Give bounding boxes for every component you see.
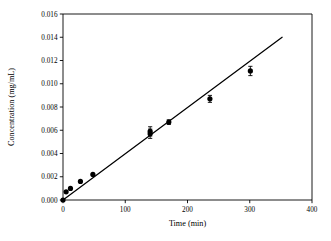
data-point-marker — [78, 179, 83, 184]
y-axis-title: Concentration (mg/mL) — [7, 68, 16, 146]
data-point-marker — [60, 197, 65, 202]
data-points — [60, 66, 253, 202]
x-axis-title: Time (min) — [169, 219, 207, 228]
data-point-marker — [68, 186, 73, 191]
y-tick-label: 0.008 — [41, 104, 58, 112]
data-point-marker — [207, 96, 212, 101]
y-tick-label: 0.016 — [41, 11, 58, 19]
x-tick-label: 0 — [61, 206, 65, 214]
chart-figure: 0.0000.0020.0040.0060.0080.0100.0120.014… — [0, 0, 331, 241]
data-point-marker — [64, 189, 69, 194]
y-tick-label: 0.014 — [41, 34, 58, 42]
axis-labels: 0.0000.0020.0040.0060.0080.0100.0120.014… — [7, 11, 318, 228]
fit-line-path — [63, 37, 282, 200]
scatter-plot: 0.0000.0020.0040.0060.0080.0100.0120.014… — [0, 0, 331, 241]
data-point-marker — [148, 129, 153, 134]
regression-line — [63, 37, 282, 200]
y-tick-label: 0.012 — [41, 57, 58, 65]
data-point-marker — [90, 172, 95, 177]
y-tick-label: 0.010 — [41, 80, 58, 88]
x-tick-label: 300 — [244, 206, 255, 214]
y-tick-label: 0.004 — [41, 150, 58, 158]
x-tick-label: 200 — [182, 206, 193, 214]
x-tick-label: 100 — [120, 206, 131, 214]
y-tick-label: 0.002 — [41, 173, 58, 181]
x-tick-label: 400 — [307, 206, 318, 214]
y-tick-label: 0.006 — [41, 127, 58, 135]
y-tick-label: 0.000 — [41, 197, 58, 205]
data-point-marker — [166, 120, 171, 125]
data-point-marker — [248, 68, 253, 73]
